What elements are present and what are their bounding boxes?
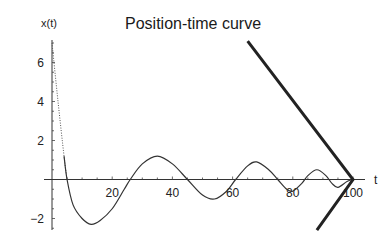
- y-tick-label: 4: [37, 95, 44, 109]
- x-axis-label: t: [374, 173, 378, 187]
- chart-title: Position-time curve: [125, 15, 261, 32]
- x-tick-label: 40: [166, 186, 180, 200]
- x-tick-label: 60: [226, 186, 240, 200]
- x-tick-labels: 20406080100: [106, 186, 364, 200]
- position-time-chart: Position-time curve x(t) t −2246 2040608…: [0, 0, 392, 247]
- y-tick-labels: −2246: [30, 56, 44, 226]
- envelope-lines: [248, 41, 353, 230]
- x-tick-label: 20: [106, 186, 120, 200]
- y-tick-label: 6: [37, 56, 44, 70]
- x-axis: [44, 177, 365, 180]
- y-axis-label: x(t): [41, 17, 57, 29]
- y-tick-label: 2: [37, 134, 44, 148]
- y-tick-label: −2: [30, 212, 44, 226]
